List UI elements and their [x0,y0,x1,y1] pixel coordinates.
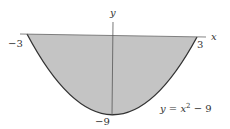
tick-label-bottom: −9 [95,116,110,127]
y-axis-label: y [109,7,116,18]
parabola-diagram: y x −3 3 −9 y = x2 − 9 [0,0,230,129]
tick-label-right: 3 [197,39,203,50]
equation-label: y = x2 − 9 [159,102,212,114]
tick-label-left: −3 [8,38,23,49]
x-axis-label: x [211,31,217,42]
